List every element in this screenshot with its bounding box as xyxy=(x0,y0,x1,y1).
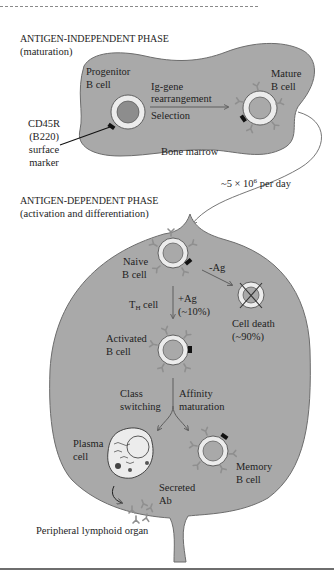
cell-death-label-2: (~90%) xyxy=(232,331,264,343)
migration-rate-base: ~5 × 10 xyxy=(221,178,254,189)
th-cell-rest: cell xyxy=(140,299,158,310)
independent-phase-title: ANTIGEN-INDEPENDENT PHASE xyxy=(20,33,169,45)
with-antigen-label-2: (~10%) xyxy=(178,306,210,318)
secreted-label-2: Ab xyxy=(159,495,172,507)
bottom-rule xyxy=(0,568,334,570)
bone-marrow-label: Bone marrow xyxy=(161,146,218,158)
progenitor-label-2: B cell xyxy=(86,79,111,91)
progenitor-label-1: Progenitor xyxy=(86,66,130,78)
mature-label-1: Mature xyxy=(271,68,301,80)
class-switch-label-2: switching xyxy=(120,401,161,413)
cell-death-label-1: Cell death xyxy=(232,318,275,330)
plasma-label-2: cell xyxy=(73,451,88,463)
marker-label-1: CD45R xyxy=(26,118,62,130)
dead-cell xyxy=(238,282,264,308)
marker-label-4: marker xyxy=(26,157,62,169)
activated-label-1: Activated xyxy=(106,333,147,345)
migration-rate-label: ~5 × 106 per day xyxy=(221,175,291,190)
affinity-label-1: Affinity xyxy=(179,388,213,400)
b-cell-development-diagram: ANTIGEN-INDEPENDENT PHASE (maturation) P… xyxy=(0,0,334,571)
independent-phase-subtitle: (maturation) xyxy=(20,46,72,58)
step-label-3: Selection xyxy=(151,110,190,122)
step-label-1: Ig-gene xyxy=(151,81,183,93)
secreted-label-1: Secreted xyxy=(159,482,195,494)
no-antigen-label: -Ag xyxy=(209,262,225,274)
dependent-phase-subtitle: (activation and differentiation) xyxy=(20,208,149,220)
affinity-label-2: maturation xyxy=(179,401,225,413)
mature-label-2: B cell xyxy=(271,81,296,93)
class-switch-label-1: Class xyxy=(120,388,143,400)
plasma-label-1: Plasma xyxy=(73,438,103,450)
naive-label-2: B cell xyxy=(122,269,147,281)
dependent-phase-title: ANTIGEN-DEPENDENT PHASE xyxy=(20,195,158,207)
memory-label-1: Memory xyxy=(236,461,272,473)
naive-label-1: Naive xyxy=(123,256,148,268)
step-label-2: rearrangement xyxy=(151,93,212,105)
th-cell-label: TH cell xyxy=(129,299,158,314)
memory-label-2: B cell xyxy=(236,474,261,486)
marker-label-3: surface xyxy=(26,144,62,156)
activated-label-2: B cell xyxy=(106,346,131,358)
marker-label-2: (B220) xyxy=(26,131,62,143)
migration-rate-unit: per day xyxy=(257,178,291,189)
peripheral-organ-label: Peripheral lymphoid organ xyxy=(36,525,148,537)
with-antigen-label-1: +Ag xyxy=(178,293,197,305)
